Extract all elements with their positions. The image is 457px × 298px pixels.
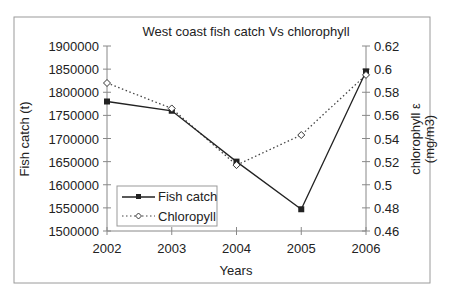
right-axis-tick-label: 0.58 — [374, 85, 399, 100]
x-axis-title: Years — [220, 263, 253, 278]
right-axis-tick-label: 0.6 — [374, 62, 392, 77]
legend-chlorophyll-label: Chloropyll — [158, 209, 216, 224]
chart: West coast fish catch Vs chlorophyll 150… — [0, 0, 457, 298]
x-axis-tick-label: 2004 — [222, 241, 251, 256]
left-axis-tick-label: 1850000 — [48, 62, 99, 77]
x-axis-tick-label: 2003 — [157, 241, 186, 256]
legend: Fish catch Chloropyll — [117, 186, 217, 226]
chart-title: West coast fish catch Vs chlorophyll — [142, 24, 349, 39]
left-axis-tick-label: 1500000 — [48, 224, 99, 239]
left-axis-tick-label: 1600000 — [48, 178, 99, 193]
left-axis-tick-label: 1550000 — [48, 201, 99, 216]
right-axis-tick-label: 0.46 — [374, 224, 399, 239]
right-axis-tick-label: 0.52 — [374, 155, 399, 170]
left-axis-tick-label: 1700000 — [48, 132, 99, 147]
y-axis-title: Fish catch (t) — [17, 101, 32, 176]
legend-fish-catch-marker — [136, 194, 141, 199]
legend-fish-catch-label: Fish catch — [158, 189, 217, 204]
right-axis-tick-label: 0.48 — [374, 201, 399, 216]
y2-axis-title-line1: chlorophyll ε — [408, 103, 423, 175]
right-axis-tick-label: 0.5 — [374, 178, 392, 193]
right-axis-tick-label: 0.56 — [374, 108, 399, 123]
right-axis-tick-label: 0.62 — [374, 39, 399, 54]
x-axis-tick-label: 2006 — [352, 241, 381, 256]
x-axis-tick-label: 2002 — [93, 241, 122, 256]
left-axis-tick-label: 1650000 — [48, 155, 99, 170]
fish-catch-point — [104, 99, 110, 105]
fish-catch-point — [298, 206, 304, 212]
left-axis-tick-label: 1900000 — [48, 39, 99, 54]
left-axis-tick-label: 1800000 — [48, 85, 99, 100]
right-axis-tick-label: 0.54 — [374, 132, 399, 147]
y2-axis-title-line2: (mg/m3) — [422, 115, 437, 163]
left-axis-tick-label: 1750000 — [48, 108, 99, 123]
x-axis-tick-label: 2005 — [287, 241, 316, 256]
